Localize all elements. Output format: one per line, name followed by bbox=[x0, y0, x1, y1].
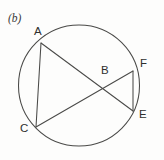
chord-cf bbox=[36, 71, 133, 127]
point-label-f: F bbox=[140, 57, 147, 69]
point-label-b: B bbox=[101, 64, 109, 76]
point-label-c: C bbox=[20, 122, 29, 134]
circle-geometry-diagram: A B C E F (b) bbox=[0, 0, 164, 160]
point-label-e: E bbox=[139, 108, 147, 120]
chord-ac bbox=[36, 43, 41, 127]
point-label-a: A bbox=[34, 25, 42, 37]
panel-caption: (b) bbox=[8, 12, 22, 25]
main-circle bbox=[19, 25, 140, 146]
chord-ae bbox=[41, 43, 133, 111]
figure-panel: A B C E F (b) bbox=[0, 0, 164, 160]
